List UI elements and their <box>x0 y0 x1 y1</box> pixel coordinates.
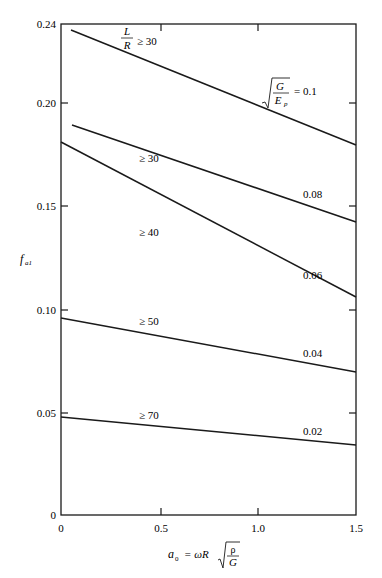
param-label-0.06: 0.06 <box>303 269 323 281</box>
y-tick-0.24: 0.24 <box>37 18 57 30</box>
param-label-0.08: 0.08 <box>303 188 323 200</box>
lr-label-3: ≥ 40 <box>139 226 159 238</box>
x-tick-0: 0 <box>58 522 64 534</box>
param-label-0.02: 0.02 <box>303 425 322 437</box>
svg-text:E: E <box>274 94 282 106</box>
svg-text:= ωR: = ωR <box>184 548 209 560</box>
svg-text:≥ 30: ≥ 30 <box>137 35 157 47</box>
svg-text:L: L <box>123 25 130 37</box>
x-axis-label: a 0 = ωR ρ G <box>168 542 240 568</box>
lr-label-2: ≥ 30 <box>139 152 159 164</box>
svg-text:p: p <box>283 100 288 108</box>
x-tick-labels: 0 0.5 1.0 1.5 <box>58 522 363 534</box>
chart-canvas: 0.24 0.20 0.15 0.10 0.05 0 0 0.5 1.0 1.5… <box>0 0 382 578</box>
y-tick-0.15: 0.15 <box>37 200 57 212</box>
series-line-0.08 <box>72 125 356 222</box>
y-tick-0.20: 0.20 <box>37 97 57 109</box>
param-sqrt-label: G E p = 0.1 <box>262 78 317 108</box>
x-ticks <box>161 24 258 515</box>
y-tick-labels: 0.24 0.20 0.15 0.10 0.05 0 <box>37 18 57 521</box>
svg-text:a: a <box>168 547 174 561</box>
svg-text:G: G <box>229 556 237 568</box>
svg-text:a1: a1 <box>25 259 32 267</box>
svg-text:= 0.1: = 0.1 <box>294 85 317 97</box>
svg-text:0: 0 <box>175 555 179 563</box>
lr-fraction-label: L R ≥ 30 <box>121 25 157 51</box>
param-label-0.04: 0.04 <box>303 347 323 359</box>
svg-text:ρ: ρ <box>231 544 236 555</box>
lr-label-5: ≥ 70 <box>139 409 159 421</box>
y-tick-0.05: 0.05 <box>37 407 57 419</box>
y-ticks <box>61 103 356 413</box>
svg-text:G: G <box>276 80 284 92</box>
lr-label-4: ≥ 50 <box>139 315 159 327</box>
x-tick-0.5: 0.5 <box>154 522 168 534</box>
svg-text:R: R <box>123 39 131 51</box>
param-labels: 0.08 0.06 0.04 0.02 <box>303 188 323 437</box>
series-line-0.04 <box>61 318 356 372</box>
y-tick-0.10: 0.10 <box>37 304 57 316</box>
y-tick-0: 0 <box>51 509 57 521</box>
x-tick-1.5: 1.5 <box>349 522 363 534</box>
y-axis-label: f a1 <box>20 252 32 267</box>
x-tick-1.0: 1.0 <box>251 522 265 534</box>
